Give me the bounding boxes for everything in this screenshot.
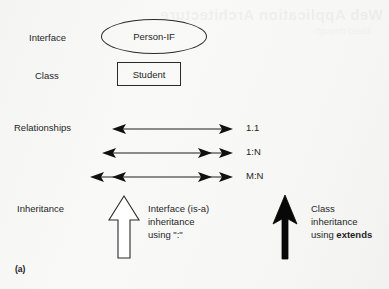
arrow-svg-many-to-many: [88, 168, 235, 186]
class-node-label: Student: [133, 69, 166, 80]
relationship-arrow-one-to-one: [110, 120, 235, 138]
relationship-arrow-many-to-many: [88, 168, 235, 186]
inheritance-arrow-solid: [272, 194, 298, 264]
arrow-svg-one-to-many: [100, 144, 235, 162]
row-label-inheritance: Inheritance: [17, 203, 64, 214]
page-bleedthrough-watermark: Web Application Architecture: [160, 6, 383, 23]
interface-node-label: Person-IF: [133, 31, 175, 42]
hollow-up-arrow-icon: [107, 194, 141, 260]
inheritance-hollow-line3-keyword: ":": [173, 229, 182, 240]
row-label-interface: Interface: [29, 32, 66, 43]
interface-node-ellipse: Person-IF: [101, 19, 207, 54]
inheritance-solid-line3-prefix: using: [311, 229, 336, 240]
inheritance-solid-line3-keyword: extends: [336, 229, 372, 240]
inheritance-hollow-line3-prefix: using: [148, 229, 173, 240]
inheritance-hollow-line1: Interface (is-a): [148, 202, 209, 215]
figure-caption: (a): [15, 264, 25, 274]
inheritance-caption-solid: Class inheritance using extends: [311, 202, 372, 241]
cardinality-label-many-to-many: M:N: [246, 170, 263, 181]
figure-diagram: Web Application Architecture bleed-throu…: [0, 0, 389, 289]
relationship-arrow-one-to-many: [100, 144, 235, 162]
row-label-relationships: Relationships: [14, 122, 71, 133]
arrow-svg-one-to-one: [110, 120, 235, 138]
cardinality-label-one-to-one: 1.1: [246, 122, 259, 133]
solid-up-arrow-icon: [272, 194, 298, 260]
inheritance-caption-hollow: Interface (is-a) inheritance using ":": [148, 202, 209, 241]
page-bleedthrough-watermark-sub: bleed-through: [315, 26, 371, 36]
row-label-class: Class: [35, 70, 59, 81]
cardinality-label-one-to-many: 1:N: [246, 146, 261, 157]
class-node-rectangle: Student: [117, 62, 181, 86]
inheritance-arrow-hollow: [107, 194, 141, 264]
inheritance-hollow-line2: inheritance: [148, 215, 209, 228]
inheritance-solid-line2: inheritance: [311, 215, 372, 228]
inheritance-solid-line3: using extends: [311, 228, 372, 241]
inheritance-solid-line1: Class: [311, 202, 372, 215]
inheritance-hollow-line3: using ":": [148, 228, 209, 241]
